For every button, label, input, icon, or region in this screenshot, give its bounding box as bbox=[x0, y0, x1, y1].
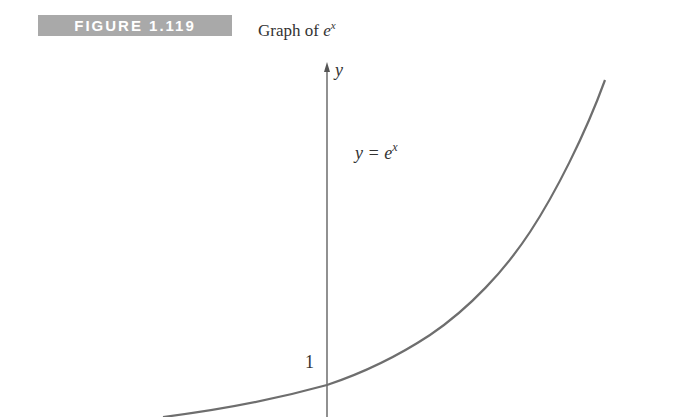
eq-base: e bbox=[384, 143, 392, 163]
y-axis-arrow-icon bbox=[324, 62, 330, 72]
y-axis-label: y bbox=[335, 60, 343, 81]
exp-curve bbox=[163, 80, 605, 417]
intercept-label: 1 bbox=[305, 352, 314, 373]
eq-lhs: y = bbox=[355, 143, 384, 163]
curve-equation-label: y = ex bbox=[355, 140, 397, 164]
eq-exp: x bbox=[392, 140, 397, 154]
